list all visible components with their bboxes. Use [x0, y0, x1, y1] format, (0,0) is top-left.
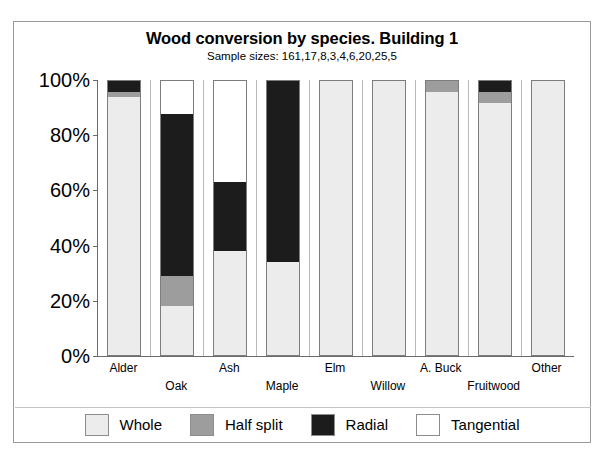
y-tick-mark — [93, 356, 98, 357]
y-tick-label: 100% — [39, 70, 90, 90]
x-label-slot: Oak — [150, 359, 203, 401]
bar-segment-radial — [267, 81, 298, 262]
stacked-bar[interactable] — [107, 80, 140, 356]
x-tick-label: Other — [532, 361, 562, 375]
y-tick-label: 80% — [50, 125, 90, 145]
legend-label: Half split — [225, 416, 283, 434]
x-label-slot: Willow — [361, 359, 414, 401]
x-tick-label: Elm — [325, 361, 346, 375]
legend-swatch — [190, 414, 214, 436]
x-tick-label: A. Buck — [420, 361, 461, 375]
legend-swatch — [85, 414, 109, 436]
bars-layer — [98, 80, 574, 356]
stacked-bar[interactable] — [478, 80, 511, 356]
stacked-bar[interactable] — [319, 80, 352, 356]
legend-item-half-split[interactable]: Half split — [190, 414, 283, 436]
chart-title: Wood conversion by species. Building 1 — [14, 28, 590, 48]
bar-slot-a-buck[interactable] — [416, 80, 469, 356]
x-label-slot: Fruitwood — [467, 359, 520, 401]
bar-segment-half-split — [426, 81, 457, 92]
legend-item-radial[interactable]: Radial — [311, 414, 389, 436]
x-label-slot: Maple — [256, 359, 309, 401]
bar-slot-willow[interactable] — [363, 80, 416, 356]
x-axis-labels: AlderOakAshMapleElmWillowA. BuckFruitwoo… — [97, 359, 573, 401]
bar-segment-whole — [479, 103, 510, 355]
bar-slot-elm[interactable] — [310, 80, 363, 356]
bar-slot-maple[interactable] — [257, 80, 310, 356]
bar-slot-fruitwood[interactable] — [469, 80, 522, 356]
stacked-bar[interactable] — [531, 80, 564, 356]
x-tick-label: Alder — [109, 361, 137, 375]
bar-segment-whole — [426, 92, 457, 355]
x-tick-label: Fruitwood — [467, 379, 520, 393]
bar-segment-radial — [479, 81, 510, 92]
bar-segment-whole — [373, 81, 404, 355]
legend-item-whole[interactable]: Whole — [85, 414, 163, 436]
x-tick-label: Willow — [371, 379, 406, 393]
stacked-bar[interactable] — [213, 80, 246, 356]
bar-segment-radial — [161, 114, 192, 276]
bar-segment-tangential — [214, 81, 245, 182]
bar-segment-whole — [320, 81, 351, 355]
chart-subtitle: Sample sizes: 161,17,8,3,4,6,20,25,5 — [14, 49, 590, 64]
bar-segment-whole — [108, 97, 139, 355]
chart-frame: Wood conversion by species. Building 1 S… — [13, 21, 591, 443]
y-tick-label: 20% — [50, 291, 90, 311]
x-tick-label: Maple — [266, 379, 299, 393]
stacked-bar[interactable] — [266, 80, 299, 356]
chart-legend: WholeHalf splitRadialTangential — [14, 414, 590, 436]
bar-slot-other[interactable] — [522, 80, 574, 356]
bar-segment-whole — [532, 81, 563, 355]
legend-divider — [15, 407, 591, 408]
bar-segment-radial — [214, 182, 245, 251]
bar-segment-whole — [161, 306, 192, 355]
y-tick-label: 0% — [61, 346, 90, 366]
legend-item-tangential[interactable]: Tangential — [416, 414, 519, 436]
x-label-slot: A. Buck — [414, 359, 467, 401]
bar-slot-ash[interactable] — [204, 80, 257, 356]
x-label-slot: Elm — [309, 359, 362, 401]
legend-swatch — [311, 414, 335, 436]
stacked-bar[interactable] — [425, 80, 458, 356]
y-tick-label: 40% — [50, 236, 90, 256]
legend-swatch — [416, 414, 440, 436]
y-tick-label: 60% — [50, 180, 90, 200]
x-tick-label: Ash — [219, 361, 240, 375]
bar-segment-whole — [267, 262, 298, 355]
legend-label: Tangential — [451, 416, 519, 434]
x-tick-label: Oak — [165, 379, 187, 393]
x-label-slot: Other — [520, 359, 573, 401]
title-block: Wood conversion by species. Building 1 S… — [14, 28, 590, 64]
bar-segment-half-split — [479, 92, 510, 103]
x-label-slot: Ash — [203, 359, 256, 401]
legend-label: Radial — [346, 416, 389, 434]
bar-slot-alder[interactable] — [98, 80, 151, 356]
bar-segment-tangential — [161, 81, 192, 114]
stacked-bar[interactable] — [160, 80, 193, 356]
bar-slot-oak[interactable] — [151, 80, 204, 356]
legend-label: Whole — [120, 416, 163, 434]
bar-segment-radial — [108, 81, 139, 92]
bar-segment-half-split — [161, 276, 192, 306]
x-label-slot: Alder — [97, 359, 150, 401]
plot-area: 0%20%40%60%80%100% — [97, 80, 574, 357]
stacked-bar[interactable] — [372, 80, 405, 356]
bar-segment-whole — [214, 251, 245, 355]
